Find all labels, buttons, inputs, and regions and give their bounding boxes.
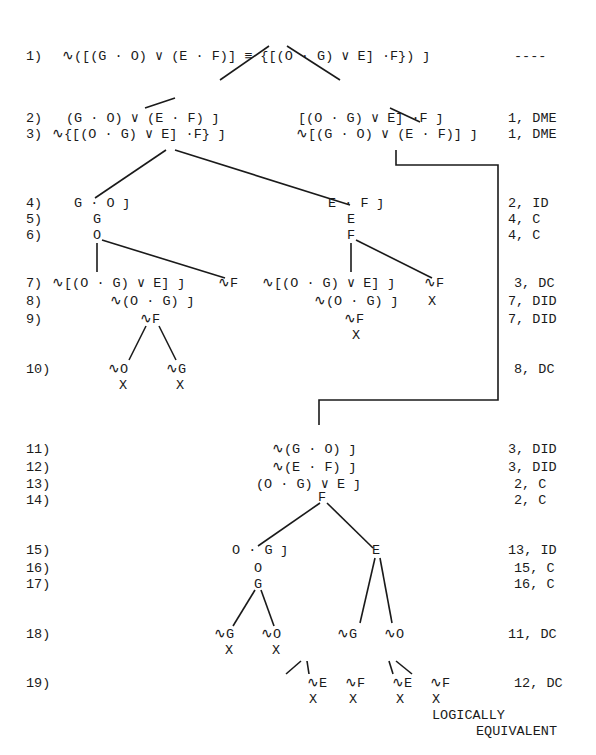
justification: 1, DME bbox=[508, 127, 557, 142]
line-number: 4) bbox=[26, 196, 42, 211]
line-number: 8) bbox=[26, 294, 42, 309]
justification: 13, ID bbox=[508, 543, 557, 558]
formula: (O · G) ∨ E ȷ bbox=[256, 477, 361, 492]
formula: G bbox=[93, 212, 101, 227]
closed-branch-marker: X bbox=[396, 692, 404, 707]
formula: (G · O) ∨ (E · F) ȷ bbox=[66, 111, 220, 126]
formula: ∿F bbox=[424, 276, 444, 291]
justification: 3, DID bbox=[508, 460, 557, 475]
justification: 7, DID bbox=[508, 312, 557, 327]
formula: ∿O bbox=[384, 627, 404, 642]
closed-branch-marker: X bbox=[176, 378, 184, 393]
formula: ∿F bbox=[344, 312, 364, 327]
formula: G · O ȷ bbox=[74, 196, 131, 211]
formula: ∿O bbox=[108, 362, 128, 377]
formula: G bbox=[254, 577, 262, 592]
formula: ∿G bbox=[214, 627, 234, 642]
formula: E bbox=[347, 212, 355, 227]
closed-branch-marker: X bbox=[349, 692, 357, 707]
formula: O bbox=[254, 561, 262, 576]
formula: ∿E bbox=[307, 676, 327, 691]
formula: ∿G bbox=[166, 362, 186, 377]
line-number: 2) bbox=[26, 111, 42, 126]
formula: ∿{[(O · G) ∨ E] ·F} ȷ bbox=[52, 127, 226, 142]
line-number: 7) bbox=[26, 276, 42, 291]
formula: [(O · G) ∨ E] ·F ȷ bbox=[298, 111, 444, 126]
closed-branch-marker: X bbox=[428, 294, 436, 309]
line-number: 1) bbox=[26, 49, 42, 64]
formula: ∿(G · O) ȷ bbox=[272, 442, 357, 457]
line-number: 3) bbox=[26, 127, 42, 142]
formula: F bbox=[318, 490, 326, 505]
justification: 16, C bbox=[514, 577, 555, 592]
justification: 4, C bbox=[508, 212, 540, 227]
formula: ∿([(G · O) ∨ (E · F)] ≡ {[(O · G) ∨ E] ·… bbox=[62, 49, 431, 64]
line-number: 9) bbox=[26, 312, 42, 327]
justification: 3, DID bbox=[508, 442, 557, 457]
line-number: 13) bbox=[26, 477, 50, 492]
line-number: 5) bbox=[26, 212, 42, 227]
justification: 7, DID bbox=[508, 294, 557, 309]
formula: E bbox=[372, 543, 380, 558]
justification: 12, DC bbox=[514, 676, 563, 691]
formula: O · G ȷ bbox=[232, 543, 289, 558]
line-number: 17) bbox=[26, 577, 50, 592]
line-number: 6) bbox=[26, 228, 42, 243]
formula: ∿[(G · O) ∨ (E · F)] ȷ bbox=[296, 127, 478, 142]
justification: 2, C bbox=[514, 477, 546, 492]
line-number: 15) bbox=[26, 543, 50, 558]
line-number: 11) bbox=[26, 442, 50, 457]
formula: ∿G bbox=[337, 627, 357, 642]
formula: ∿F bbox=[140, 312, 160, 327]
formula: ∿(O · G) ȷ bbox=[110, 294, 195, 309]
formula: ∿F bbox=[345, 676, 365, 691]
formula: ∿[(O · G) ∨ E] ȷ bbox=[262, 276, 396, 291]
closed-branch-marker: X bbox=[272, 643, 280, 658]
formula: ∿O bbox=[261, 627, 281, 642]
formula: F bbox=[347, 228, 355, 243]
justification: 1, DME bbox=[508, 111, 557, 126]
justification: ---- bbox=[514, 49, 546, 64]
line-number: 10) bbox=[26, 362, 50, 377]
justification: 2, C bbox=[514, 493, 546, 508]
conclusion-line-1: LOGICALLY bbox=[432, 708, 505, 723]
line-number: 14) bbox=[26, 493, 50, 508]
conclusion-line-2: EQUIVALENT bbox=[476, 724, 557, 739]
formula: O bbox=[93, 228, 101, 243]
justification: 11, DC bbox=[508, 627, 557, 642]
formula: ∿[(O · G) ∨ E] ȷ bbox=[52, 276, 186, 291]
justification: 8, DC bbox=[514, 362, 555, 377]
closed-branch-marker: X bbox=[119, 378, 127, 393]
formula: ∿E bbox=[392, 676, 412, 691]
justification: 3, DC bbox=[514, 276, 555, 291]
closed-branch-marker: X bbox=[432, 692, 440, 707]
justification: 2, ID bbox=[508, 196, 549, 211]
justification: 4, C bbox=[508, 228, 540, 243]
line-number: 16) bbox=[26, 561, 50, 576]
line-number: 12) bbox=[26, 460, 50, 475]
justification: 15, C bbox=[514, 561, 555, 576]
formula: E · F ȷ bbox=[328, 196, 385, 211]
formula: ∿(O · G) ȷ bbox=[314, 294, 399, 309]
closed-branch-marker: X bbox=[352, 328, 360, 343]
line-number: 18) bbox=[26, 627, 50, 642]
closed-branch-marker: X bbox=[309, 692, 317, 707]
line-number: 19) bbox=[26, 676, 50, 691]
formula: ∿F bbox=[430, 676, 450, 691]
formula: ∿(E · F) ȷ bbox=[272, 460, 357, 475]
closed-branch-marker: X bbox=[225, 643, 233, 658]
formula: ∿F bbox=[218, 276, 238, 291]
